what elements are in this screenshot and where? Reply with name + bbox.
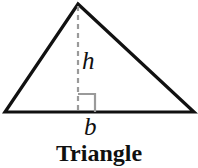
triangle-figure: h b Triangle xyxy=(0,0,198,168)
height-label: h xyxy=(82,48,95,73)
triangle-outline xyxy=(5,4,194,112)
figure-caption: Triangle xyxy=(0,141,198,166)
base-label: b xyxy=(84,114,97,139)
right-angle-icon xyxy=(78,94,95,112)
